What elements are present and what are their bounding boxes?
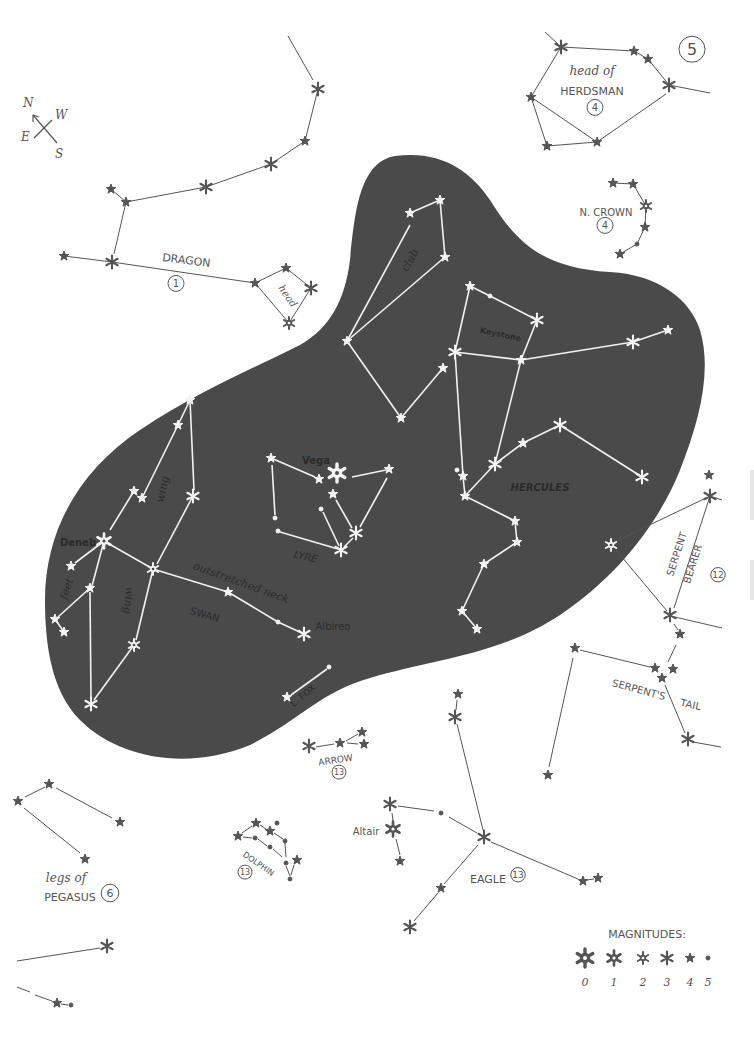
pegasus-star-icon bbox=[13, 796, 23, 805]
serpents-tail-line bbox=[549, 658, 573, 767]
serpents-tail-star-icon bbox=[682, 733, 693, 746]
chart-number-badge: 1 bbox=[173, 278, 179, 289]
serpents-tail-star-icon bbox=[650, 663, 660, 672]
eagle-star-icon bbox=[436, 883, 446, 892]
dolphin-star-icon bbox=[284, 861, 288, 865]
chart-number-badge: 12 bbox=[712, 570, 723, 580]
serpent-bearer-line bbox=[675, 617, 722, 628]
eagle-star-icon bbox=[384, 798, 395, 811]
magnitude-1-star-icon bbox=[608, 951, 621, 966]
magnitude-0-star-icon bbox=[577, 949, 593, 967]
dolphin-line bbox=[243, 837, 252, 838]
chart-number-badge: 6 bbox=[107, 887, 114, 900]
serpents-tail-star-icon bbox=[668, 664, 678, 673]
dragon-star-icon bbox=[305, 282, 316, 295]
summer-triangle-region bbox=[45, 155, 705, 759]
eagle-star-icon bbox=[439, 811, 443, 815]
dragon-star-icon bbox=[200, 181, 211, 194]
serpents-tail-star-icon bbox=[657, 673, 667, 682]
magnitude-label: 2 bbox=[639, 976, 647, 989]
lyre-star-icon bbox=[319, 507, 323, 511]
eagle-line bbox=[398, 806, 434, 811]
magnitude-2-star-icon bbox=[638, 952, 648, 964]
serpent-bearer-line bbox=[616, 550, 667, 611]
arrow-star-icon bbox=[359, 739, 369, 748]
magnitude-label: 1 bbox=[611, 976, 618, 989]
herdsman-line bbox=[547, 142, 597, 146]
eagle-star-icon bbox=[478, 831, 489, 844]
serpent-bearer-line bbox=[674, 624, 678, 630]
dragon-line bbox=[114, 202, 126, 254]
pegasus-star-icon bbox=[115, 817, 125, 826]
dolphin-line bbox=[258, 839, 267, 846]
dolphin-line bbox=[274, 833, 283, 839]
magnitude-label: 4 bbox=[686, 976, 694, 989]
magnitude-5-star-icon bbox=[706, 956, 710, 960]
eagle-star-icon bbox=[387, 822, 400, 837]
dragon-star-icon bbox=[265, 158, 276, 171]
eagle-line bbox=[456, 700, 457, 710]
little-fox-star-icon bbox=[327, 665, 331, 669]
eagle-star-icon bbox=[395, 856, 405, 865]
arrow-line bbox=[347, 743, 358, 744]
pegasus-star-icon bbox=[80, 854, 90, 863]
eagle-line bbox=[457, 724, 483, 830]
chart-number-badge: 4 bbox=[592, 102, 598, 113]
dragon-star-icon bbox=[250, 278, 260, 287]
chart-number-badge: 13 bbox=[240, 868, 250, 877]
herdsman-star-icon bbox=[542, 141, 552, 150]
constellation-label: BEARER bbox=[681, 543, 704, 585]
constellation-label: wing bbox=[121, 586, 136, 614]
dolphin-star-icon bbox=[268, 845, 272, 849]
dolphin-star-icon bbox=[253, 836, 257, 840]
pegasus-line bbox=[61, 1004, 68, 1005]
dragon-line bbox=[206, 164, 271, 187]
arrow-star-icon bbox=[357, 727, 367, 736]
compass-n: N bbox=[22, 96, 34, 110]
n-crown-star-icon bbox=[615, 249, 625, 258]
pegasus-star-icon bbox=[101, 940, 112, 953]
herdsman-star-icon bbox=[643, 54, 653, 63]
eagle-line bbox=[396, 839, 400, 855]
compass-w: W bbox=[55, 108, 69, 122]
eagle-line bbox=[392, 813, 393, 821]
serpent-bearer-star-icon bbox=[704, 490, 715, 503]
dolphin-line bbox=[286, 866, 290, 876]
page-edge-mark bbox=[750, 470, 754, 520]
constellation-label: HERCULES bbox=[511, 482, 570, 493]
herdsman-star-icon bbox=[629, 46, 639, 55]
hercules-star-icon bbox=[488, 294, 492, 298]
dragon-line bbox=[126, 187, 206, 202]
chart-number-badge: 13 bbox=[334, 768, 344, 777]
hercules-star-icon bbox=[455, 468, 459, 472]
dragon-star-icon bbox=[121, 197, 131, 206]
serpents-tail-star-icon bbox=[570, 643, 580, 652]
magnitude-label: 0 bbox=[582, 976, 589, 989]
lyre-star-icon bbox=[273, 516, 277, 520]
serpents-tail-line bbox=[580, 650, 650, 667]
herdsman-line bbox=[597, 94, 666, 142]
constellation-label: HERDSMAN bbox=[560, 85, 624, 98]
constellation-label: Altair bbox=[353, 826, 380, 837]
pegasus-line bbox=[56, 788, 112, 818]
dolphin-line bbox=[291, 865, 294, 875]
page-edge-mark bbox=[750, 560, 754, 600]
constellation-label: head of bbox=[569, 64, 617, 78]
constellation-label: Albireo bbox=[316, 621, 351, 632]
constellation-label: SERPENT'S bbox=[611, 677, 667, 702]
dolphin-line bbox=[285, 843, 286, 857]
magnitude-label: 3 bbox=[664, 976, 671, 989]
n-crown-star-icon bbox=[641, 200, 651, 212]
dolphin-star-icon bbox=[292, 855, 302, 864]
herdsman-line bbox=[561, 47, 634, 51]
pegasus-line bbox=[35, 995, 52, 1001]
constellation-label: head bbox=[276, 283, 299, 310]
n-crown-star-icon bbox=[628, 179, 638, 188]
pegasus-line bbox=[17, 987, 30, 992]
n-crown-star-icon bbox=[608, 178, 618, 187]
serpent-bearer-star-icon bbox=[704, 470, 714, 479]
herdsman-line bbox=[531, 97, 547, 146]
dragon-line bbox=[255, 268, 286, 283]
magnitude-4-star-icon bbox=[685, 953, 695, 962]
constellation-label: TAIL bbox=[678, 697, 702, 712]
